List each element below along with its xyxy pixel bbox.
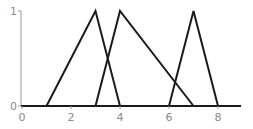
series-triangle-3	[169, 11, 218, 106]
series-triangle-2	[96, 11, 194, 106]
y-tick-label: 0	[10, 100, 17, 113]
y-tick-label: 1	[10, 5, 17, 18]
x-tick-label: 0	[19, 111, 26, 124]
x-tick-label: 6	[166, 111, 173, 124]
y-axis: 01	[10, 5, 21, 113]
x-tick-label: 8	[215, 111, 222, 124]
membership-function-chart: 01 02468	[0, 0, 253, 129]
x-tick-label: 4	[117, 111, 124, 124]
series-triangle-1	[47, 11, 121, 106]
chart-container: 01 02468	[0, 0, 253, 129]
series-layer	[47, 11, 219, 106]
x-axis: 02468	[19, 106, 242, 124]
x-tick-label: 2	[68, 111, 75, 124]
